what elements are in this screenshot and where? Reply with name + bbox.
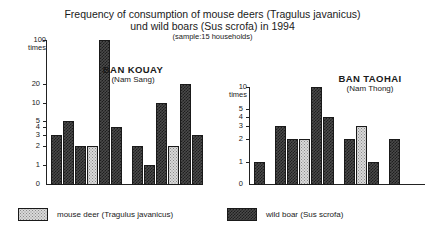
- bar-group-container: [0, 36, 205, 196]
- bar-mouse-deer: [87, 146, 98, 185]
- bar-wild-boar: [156, 103, 167, 185]
- figure-root: Frequency of consumption of mouse deers …: [0, 0, 425, 237]
- bar-wild-boar: [192, 135, 203, 185]
- bar-wild-boar: [344, 139, 355, 185]
- legend-label-mouse-deer: mouse deer (Tragulus javanicus): [57, 210, 173, 219]
- bar-wild-boar: [111, 127, 122, 185]
- village-subname: (Nam Thong): [315, 84, 425, 94]
- mouse-deer-swatch-icon: [18, 208, 48, 221]
- legend-label-wild-boar: wild boar (Sus scrofa): [266, 210, 343, 219]
- bar-wild-boar: [180, 84, 191, 185]
- bar-wild-boar: [254, 162, 265, 185]
- legend: mouse deer (Tragulus javanicus) wild boa…: [0, 205, 425, 227]
- bar-wild-boar: [287, 139, 298, 185]
- bar-mouse-deer: [168, 146, 179, 185]
- bar-wild-boar: [323, 117, 334, 185]
- bar-group-container: [215, 83, 425, 196]
- chart-ban-taohai: 10 times 123450 BAN TAOHAI (Nam Thong): [215, 83, 425, 196]
- legend-item-mouse-deer: mouse deer (Tragulus javanicus): [18, 208, 173, 221]
- legend-item-wild-boar: wild boar (Sus scrofa): [227, 208, 343, 221]
- title-line-1: Frequency of consumption of mouse deers …: [0, 8, 425, 20]
- bar-wild-boar: [144, 165, 155, 185]
- chart-ban-kouay: 100 times 1234510200 BAN KOUAY (Nam Sang…: [0, 36, 205, 196]
- bar-wild-boar: [275, 126, 286, 185]
- bar-mouse-deer: [356, 126, 367, 185]
- village-name: BAN KOUAY: [78, 64, 188, 75]
- bar-wild-boar: [311, 87, 322, 185]
- village-caption-ban-taohai: BAN TAOHAI (Nam Thong): [315, 73, 425, 94]
- bar-wild-boar: [63, 121, 74, 185]
- bar-wild-boar: [389, 139, 400, 185]
- village-name: BAN TAOHAI: [315, 73, 425, 84]
- wild-boar-swatch-icon: [227, 208, 257, 221]
- title-line-2: und wild boars (Sus scrofa) in 1994: [0, 20, 425, 32]
- bar-wild-boar: [132, 146, 143, 185]
- bar-wild-boar: [99, 40, 110, 185]
- village-caption-ban-kouay: BAN KOUAY (Nam Sang): [78, 64, 188, 85]
- bar-wild-boar: [75, 146, 86, 185]
- bar-wild-boar: [51, 135, 62, 185]
- bar-wild-boar: [368, 162, 379, 185]
- village-subname: (Nam Sang): [78, 75, 188, 85]
- bar-mouse-deer: [299, 139, 310, 185]
